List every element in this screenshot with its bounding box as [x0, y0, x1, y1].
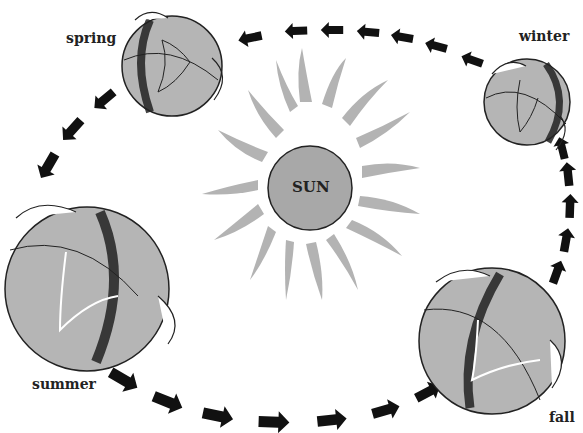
- seasons-diagram: SUN spring winter fall summer: [0, 0, 583, 433]
- season-label-fall: fall: [549, 409, 575, 425]
- diagram-canvas: [0, 0, 583, 433]
- globe-summer: [5, 205, 175, 371]
- globe-winter: [484, 59, 570, 150]
- sun-label: SUN: [292, 178, 330, 196]
- globe-fall: [419, 268, 565, 414]
- season-label-spring: spring: [66, 30, 116, 46]
- season-label-winter: winter: [519, 28, 569, 44]
- globe-spring: [122, 12, 223, 116]
- season-label-summer: summer: [32, 376, 96, 392]
